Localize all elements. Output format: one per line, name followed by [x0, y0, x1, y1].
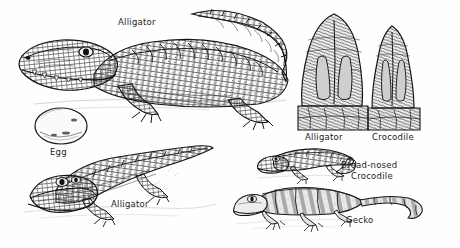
label-alligator-main: Alligator [118, 17, 156, 27]
engraving-plate: Alligator Egg Alligator Alligator Crocod… [0, 0, 460, 248]
gecko-figure [233, 187, 422, 232]
label-egg: Egg [50, 147, 67, 157]
plate-artwork [0, 0, 460, 248]
label-line-1: Broad-nosed [341, 160, 397, 170]
egg-figure [35, 108, 87, 144]
label-snout-crocodile: Crocodile [372, 132, 414, 142]
snout-alligator-figure [298, 14, 368, 130]
label-snout-alligator: Alligator [305, 132, 343, 142]
label-line-2: Crocodile [341, 171, 393, 182]
alligator-second-figure [24, 146, 216, 227]
label-alligator-second: Alligator [111, 199, 149, 209]
label-broad-nosed-crocodile: Broad-nosed Crocodile [341, 160, 413, 181]
label-gecko: Gecko [346, 215, 374, 225]
snout-crocodile-figure [368, 26, 420, 130]
